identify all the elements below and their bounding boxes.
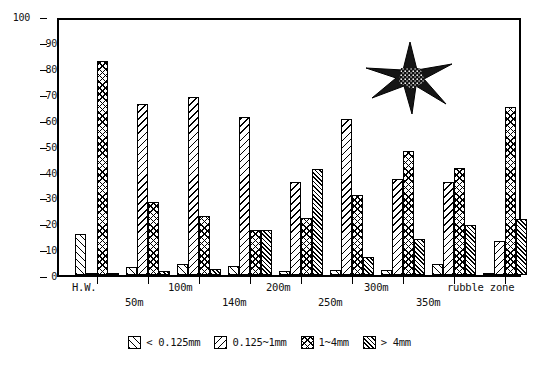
bar-group [177, 20, 221, 275]
bar[interactable] [148, 202, 159, 275]
bar[interactable] [108, 273, 119, 275]
y-tick-mark [40, 18, 47, 19]
bar-group [126, 20, 170, 275]
x-tick-label: rubble zone [447, 281, 514, 293]
bar[interactable] [228, 266, 239, 275]
legend-label: 0.125~1mm [232, 336, 286, 348]
bar[interactable] [494, 241, 505, 275]
x-tick-label: 350m [416, 296, 441, 308]
chart-legend: < 0.125mm 0.125~1mm 1~4mm > 4mm [0, 330, 539, 354]
cross-hatch-swatch-icon [301, 336, 314, 349]
bar-group [228, 20, 272, 275]
bar[interactable] [505, 107, 516, 275]
bar[interactable] [301, 218, 312, 275]
y-tick-label: 100 [0, 13, 30, 23]
y-tick-label: 40 [27, 169, 57, 179]
bar[interactable] [86, 273, 97, 275]
bar-group [279, 20, 323, 275]
back-hatch-swatch-icon [214, 336, 227, 349]
x-tick-label: 300m [364, 281, 389, 293]
bar[interactable] [392, 179, 403, 275]
y-axis: 0 10 20 30 40 50 60 70 80 90 100 [0, 18, 57, 277]
legend-label: < 0.125mm [146, 336, 200, 348]
bar[interactable] [250, 230, 261, 275]
x-tick-label: 140m [222, 296, 247, 308]
starfish-icon [360, 38, 460, 116]
bar[interactable] [290, 182, 301, 275]
bar[interactable] [177, 264, 188, 275]
bar[interactable] [352, 195, 363, 275]
bar[interactable] [279, 271, 290, 275]
bar[interactable] [432, 264, 443, 275]
bar[interactable] [137, 104, 148, 275]
x-tick-label: 100m [168, 281, 193, 293]
bar[interactable] [199, 216, 210, 275]
bar[interactable] [75, 234, 86, 275]
dense-forward-hatch-swatch-icon [363, 336, 376, 349]
y-tick-label: 60 [27, 117, 57, 127]
bar[interactable] [516, 219, 527, 275]
legend-item[interactable]: < 0.125mm [128, 336, 200, 349]
bar[interactable] [465, 225, 476, 275]
bar[interactable] [261, 230, 272, 275]
bar[interactable] [159, 271, 170, 275]
x-tick-label: H.W. [72, 281, 97, 293]
bar[interactable] [330, 270, 341, 275]
legend-label: 1~4mm [319, 336, 349, 348]
legend-item[interactable]: 1~4mm [301, 336, 349, 349]
legend-item[interactable]: > 4mm [363, 336, 411, 349]
bar[interactable] [239, 117, 250, 275]
x-tick-label: 50m [125, 296, 143, 308]
y-tick-label: 20 [27, 220, 57, 230]
y-tick-label: 50 [27, 143, 57, 153]
bar[interactable] [97, 61, 108, 275]
bar[interactable] [188, 97, 199, 276]
y-tick-label: 90 [27, 39, 57, 49]
bar[interactable] [341, 119, 352, 275]
bar[interactable] [443, 182, 454, 275]
bar[interactable] [210, 269, 221, 275]
bar[interactable] [483, 273, 494, 275]
y-tick-label: 10 [27, 246, 57, 256]
x-axis-labels: H.W.50m100m140m200m250m300m350mrubble zo… [0, 281, 539, 315]
bar[interactable] [363, 257, 374, 275]
x-tick-label: 200m [266, 281, 291, 293]
legend-label: > 4mm [381, 336, 411, 348]
bar[interactable] [312, 169, 323, 275]
y-tick-label: 70 [27, 91, 57, 101]
x-tick-label: 250m [318, 296, 343, 308]
bar[interactable] [414, 239, 425, 275]
bar-group [75, 20, 119, 275]
y-tick-label: 30 [27, 194, 57, 204]
bar[interactable] [381, 270, 392, 275]
chart-root: 0 10 20 30 40 50 60 70 80 90 100 H.W.5 [0, 0, 539, 365]
bar[interactable] [403, 151, 414, 275]
bar-group [483, 20, 527, 275]
forward-hatch-swatch-icon [128, 336, 141, 349]
y-tick-label: 80 [27, 65, 57, 75]
legend-item[interactable]: 0.125~1mm [214, 336, 286, 349]
bar[interactable] [454, 168, 465, 275]
bar[interactable] [126, 267, 137, 275]
